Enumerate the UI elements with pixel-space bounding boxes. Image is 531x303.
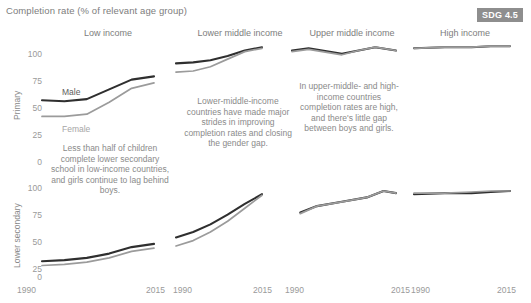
- plot-primary-low-income: [42, 44, 154, 162]
- ytick-lower-secondary-75: 75: [20, 210, 42, 220]
- status-badge: SDG 4.5: [477, 8, 523, 22]
- ytick-primary-75: 75: [20, 76, 42, 86]
- line-male: [176, 47, 262, 63]
- plot-lower-secondary-upper-middle-income: [292, 178, 396, 296]
- ytick-primary-100: 100: [20, 49, 42, 59]
- xtick-panel1-start: 1990: [17, 285, 36, 295]
- line-male: [42, 244, 154, 261]
- line-male: [300, 191, 396, 213]
- page-title: Completion rate (% of relevant age group…: [6, 5, 187, 16]
- ytick-primary-50: 50: [20, 103, 42, 113]
- ytick-primary-0: 0: [20, 157, 42, 167]
- plot-primary-high-income: [414, 44, 510, 162]
- ytick-lower-secondary-50: 50: [20, 237, 42, 247]
- ytick-lower-secondary-100: 100: [20, 183, 42, 193]
- line-male: [176, 194, 262, 237]
- line-female: [176, 48, 262, 72]
- line-male: [42, 76, 154, 101]
- plot-lower-secondary-lower-middle-income: [176, 178, 262, 296]
- panel-title-upper-middle-income: Upper middle income: [292, 28, 412, 38]
- line-female: [300, 191, 396, 214]
- panel-title-lower-middle-income: Lower middle income: [180, 28, 300, 38]
- chart-canvas: Completion rate (% of relevant age group…: [0, 0, 531, 303]
- plot-lower-secondary-low-income: [42, 178, 154, 296]
- ytick-lower-secondary-0: 0: [20, 272, 42, 282]
- panel-title-low-income: Low income: [48, 28, 168, 38]
- ytick-primary-25: 25: [20, 130, 42, 140]
- panel-title-high-income: High income: [405, 28, 525, 38]
- plot-primary-lower-middle-income: [176, 44, 262, 162]
- plot-primary-upper-middle-income: [292, 44, 396, 162]
- plot-lower-secondary-high-income: [414, 178, 510, 296]
- line-female: [42, 83, 154, 117]
- line-female: [42, 248, 154, 265]
